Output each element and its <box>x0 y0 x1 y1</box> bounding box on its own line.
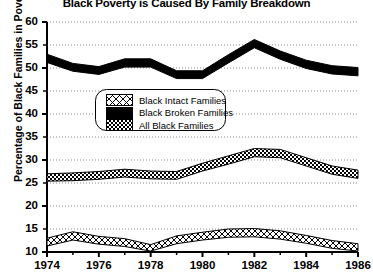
y-axis-tick-label: 50 <box>14 62 38 73</box>
legend-item: Black Broken Families <box>106 107 233 119</box>
gridlines <box>47 22 358 252</box>
data-bands <box>47 39 358 251</box>
y-axis-tick-label: 55 <box>14 39 38 50</box>
y-axis-tick-label: 30 <box>14 154 38 165</box>
x-axis-tick-label: 1984 <box>283 259 329 271</box>
x-axis-tick-label: 1986 <box>335 259 373 271</box>
plot-area <box>0 0 373 278</box>
legend-item-label: Black Intact Families <box>139 95 226 106</box>
legend-item: All Black Families <box>106 119 213 131</box>
legend-item: Black Intact Families <box>106 94 226 106</box>
legend-swatch-icon <box>106 119 133 131</box>
x-axis-tick-label: 1974 <box>24 259 70 271</box>
chart-legend: Black Intact FamiliesBlack Broken Famili… <box>95 89 226 131</box>
y-axis-tick-label: 40 <box>14 108 38 119</box>
x-axis-tick-label: 1976 <box>76 259 122 271</box>
y-axis-tick-label: 20 <box>14 200 38 211</box>
legend-item-label: Black Broken Families <box>139 107 233 118</box>
y-axis-tick-label: 35 <box>14 131 38 142</box>
y-axis-tick-label: 45 <box>14 85 38 96</box>
y-axis-tick-label: 25 <box>14 177 38 188</box>
y-axis-tick-label: 10 <box>14 246 38 257</box>
x-axis-tick-label: 1980 <box>180 259 226 271</box>
legend-swatch-icon <box>106 107 133 119</box>
legend-swatch-icon <box>106 94 133 106</box>
legend-item-label: All Black Families <box>139 120 213 131</box>
x-axis-tick-label: 1978 <box>128 259 174 271</box>
x-axis-tick-label: 1982 <box>231 259 277 271</box>
y-axis-tick-label: 15 <box>14 223 38 234</box>
chart-figure: Black Poverty is Caused By Family Breakd… <box>0 0 373 278</box>
y-axis-tick-label: 60 <box>14 16 38 27</box>
